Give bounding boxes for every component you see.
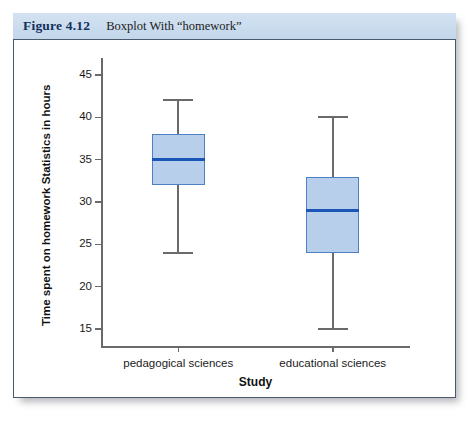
chart-plot-panel xyxy=(13,39,456,398)
figure-caption-title: Boxplot With “homework” xyxy=(106,19,241,34)
figure-number: Figure 4.12 xyxy=(23,18,90,34)
figure-panel: Figure 4.12 Boxplot With “homework” xyxy=(13,13,456,398)
figure-caption-band: Figure 4.12 Boxplot With “homework” xyxy=(13,13,456,39)
